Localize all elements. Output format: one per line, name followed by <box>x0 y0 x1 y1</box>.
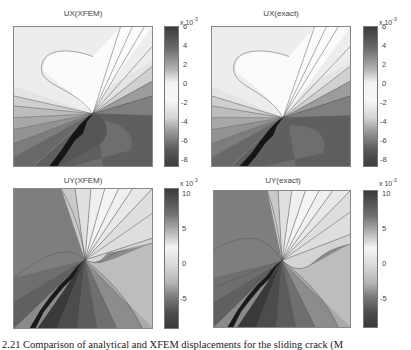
colorbar-tick: 0 <box>183 80 187 88</box>
colorbar <box>164 188 179 329</box>
colorbar-tick: 4 <box>382 42 386 50</box>
colorbar-tick: -4 <box>380 118 387 126</box>
contour-plot-ux-xfem <box>13 26 153 167</box>
colorbar-tick: -6 <box>380 137 387 145</box>
colorbar-tick: -6 <box>181 137 188 145</box>
colorbar-tick: 5 <box>182 225 186 233</box>
plot-title: UX(exact) <box>211 9 351 18</box>
colorbar-tick: 2 <box>382 61 386 69</box>
colorbar-tick: -2 <box>181 99 188 107</box>
colorbar-tick: 0 <box>382 80 386 88</box>
colorbar-tick: 6 <box>382 23 386 31</box>
colorbar-tick: -8 <box>380 156 387 164</box>
contour-plot-uy-exact <box>213 190 351 328</box>
figure-caption: 2.21 Comparison of analytical and XFEM d… <box>2 339 343 350</box>
colorbar-tick: 0 <box>182 260 186 268</box>
plot-title: UX(XFEM) <box>13 9 153 18</box>
colorbar-tick: 2 <box>183 61 187 69</box>
plot-title: UY(exact) <box>213 176 353 185</box>
colorbar-tick: 10 <box>382 190 390 198</box>
colorbar <box>164 26 179 167</box>
plot-title: UY(XFEM) <box>13 176 153 185</box>
contour-plot-ux-exact <box>211 26 351 167</box>
colorbar-tick: 4 <box>183 42 187 50</box>
colorbar-tick: -8 <box>181 156 188 164</box>
colorbar-tick: 10 <box>182 190 190 198</box>
colorbar-exponent: x 10-3 <box>180 177 198 187</box>
colorbar <box>363 26 378 167</box>
colorbar-tick: 6 <box>183 23 187 31</box>
colorbar-tick: -4 <box>181 118 188 126</box>
colorbar <box>363 190 378 328</box>
colorbar-exponent: x 10-3 <box>379 177 397 187</box>
colorbar-tick: 0 <box>382 260 386 268</box>
colorbar-tick: -5 <box>380 295 387 303</box>
colorbar-tick: 5 <box>382 225 386 233</box>
contour-plot-uy-xfem <box>13 188 153 329</box>
colorbar-tick: -5 <box>180 295 187 303</box>
colorbar-tick: -2 <box>380 99 387 107</box>
